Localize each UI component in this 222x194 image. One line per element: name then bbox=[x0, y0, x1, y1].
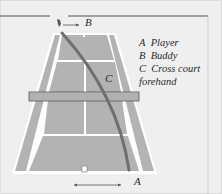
legend-item-b: B Buddy bbox=[139, 49, 200, 62]
legend: A Player B Buddy C Cross court forehand bbox=[139, 36, 200, 88]
service-box-bottom-left bbox=[44, 100, 84, 134]
label-player: A bbox=[134, 175, 141, 187]
service-box-top-right bbox=[86, 62, 121, 92]
tennis-court-diagram bbox=[0, 0, 222, 194]
legend-item-c: C Cross court bbox=[139, 62, 200, 75]
label-buddy: B bbox=[85, 16, 92, 28]
label-shot: C bbox=[105, 72, 112, 84]
center-mark-bottom bbox=[82, 166, 87, 172]
center-mark-top bbox=[83, 33, 85, 37]
legend-item-c-cont: forehand bbox=[139, 75, 200, 88]
net-pattern bbox=[29, 92, 139, 101]
legend-item-a: A Player bbox=[139, 36, 200, 49]
